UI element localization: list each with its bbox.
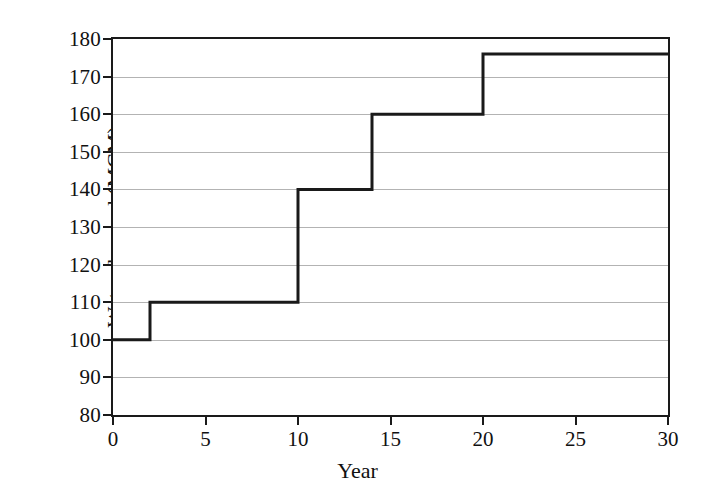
x-tick-mark-25: [575, 417, 577, 425]
x-tick-label-25: 25: [546, 429, 606, 450]
x-tick-label-5: 5: [176, 429, 236, 450]
x-tick-mark-20: [482, 417, 484, 425]
x-tick-mark-15: [390, 417, 392, 425]
y-tick-mark-180: [103, 38, 111, 40]
x-tick-mark-30: [667, 417, 669, 425]
y-tick-mark-120: [103, 264, 111, 266]
y-tick-label-120: 120: [41, 254, 101, 275]
x-tick-mark-0: [112, 417, 114, 425]
y-tick-mark-140: [103, 188, 111, 190]
y-tick-label-110: 110: [41, 292, 101, 313]
y-tick-label-100: 100: [41, 329, 101, 350]
y-tick-label-170: 170: [41, 66, 101, 87]
y-tick-label-160: 160: [41, 104, 101, 125]
x-tick-mark-5: [205, 417, 207, 425]
plot-area: [111, 37, 670, 417]
x-tick-label-0: 0: [83, 429, 143, 450]
x-tick-label-15: 15: [361, 429, 421, 450]
y-tick-mark-80: [103, 414, 111, 416]
step-series: [113, 39, 668, 415]
x-tick-mark-10: [297, 417, 299, 425]
y-tick-mark-90: [103, 376, 111, 378]
y-tick-label-130: 130: [41, 217, 101, 238]
y-tick-label-180: 180: [41, 29, 101, 50]
x-tick-label-20: 20: [453, 429, 513, 450]
y-tick-mark-170: [103, 76, 111, 78]
y-tick-label-150: 150: [41, 141, 101, 162]
x-tick-label-30: 30: [638, 429, 698, 450]
y-tick-label-90: 90: [41, 367, 101, 388]
x-axis-label: Year: [0, 458, 715, 484]
y-tick-mark-100: [103, 339, 111, 341]
water-demand-step-line: [113, 54, 668, 340]
x-tick-label-10: 10: [268, 429, 328, 450]
y-tick-mark-160: [103, 113, 111, 115]
y-tick-label-140: 140: [41, 179, 101, 200]
chart-figure: Water demand (MCM) 809010011012013014015…: [0, 0, 715, 501]
y-tick-mark-130: [103, 226, 111, 228]
y-tick-label-80: 80: [41, 405, 101, 426]
y-tick-mark-110: [103, 301, 111, 303]
y-tick-mark-150: [103, 151, 111, 153]
